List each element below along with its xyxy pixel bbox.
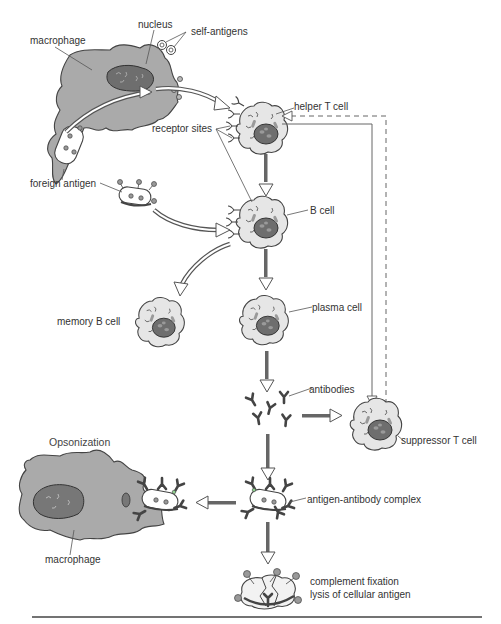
label-plasma-cell: plasma cell xyxy=(312,302,362,313)
suppressor-t-cell xyxy=(350,398,401,450)
label-suppressor-t-cell: suppressor T cell xyxy=(401,435,477,446)
macrophage-top xyxy=(48,41,183,185)
arrow-complex-to-complement xyxy=(261,522,275,564)
label-lysis: lysis of cellular antigen xyxy=(310,589,411,600)
label-macrophage-bottom: macrophage xyxy=(45,554,101,565)
plasma-cell xyxy=(240,296,289,345)
complement-fixation-icon xyxy=(235,569,302,610)
label-receptor-sites: receptor sites xyxy=(152,123,212,134)
b-cell xyxy=(226,196,288,248)
opsonization-macrophage xyxy=(19,450,186,540)
memory-b-cell xyxy=(136,298,185,347)
label-foreign-antigen: foreign antigen xyxy=(30,178,96,189)
foreign-antigen-icon xyxy=(118,180,157,207)
antigen-antibody-complex-icon xyxy=(242,478,294,519)
antibodies-icon xyxy=(246,392,290,426)
label-opsonization: Opsonization xyxy=(49,436,110,448)
label-b-cell: B cell xyxy=(310,205,334,216)
arrow-antigen-to-b-cell xyxy=(154,210,230,237)
arrow-b-cell-to-plasma xyxy=(259,249,273,290)
label-macrophage-top: macrophage xyxy=(30,35,86,46)
helper-t-cell xyxy=(226,97,288,155)
arrow-antibodies-to-complex xyxy=(261,434,275,480)
label-memory-b-cell: memory B cell xyxy=(57,316,120,327)
label-antigen-antibody-complex: antigen-antibody complex xyxy=(307,494,421,505)
arrow-antibodies-to-suppressor xyxy=(302,409,342,422)
arrow-plasma-to-antibodies xyxy=(260,351,274,392)
label-helper-t-cell: helper T cell xyxy=(294,101,348,112)
arrow-b-cell-to-memory-b xyxy=(174,244,230,296)
label-nucleus: nucleus xyxy=(138,19,172,30)
macrophage-nucleus xyxy=(107,65,154,91)
line-helper-t-to-suppressor-t xyxy=(282,124,377,405)
dashed-line-suppressor-to-helper-t xyxy=(282,111,386,404)
arrow-helper-t-to-b-cell xyxy=(259,154,273,196)
label-complement-fixation: complement fixation xyxy=(310,576,399,587)
label-self-antigens: self-antigens xyxy=(191,26,248,37)
immune-response-diagram: macrophage nucleus self-antigens recepto… xyxy=(0,0,501,624)
label-antibodies: antibodies xyxy=(309,384,355,395)
arrow-complex-to-opsonization xyxy=(196,496,236,509)
